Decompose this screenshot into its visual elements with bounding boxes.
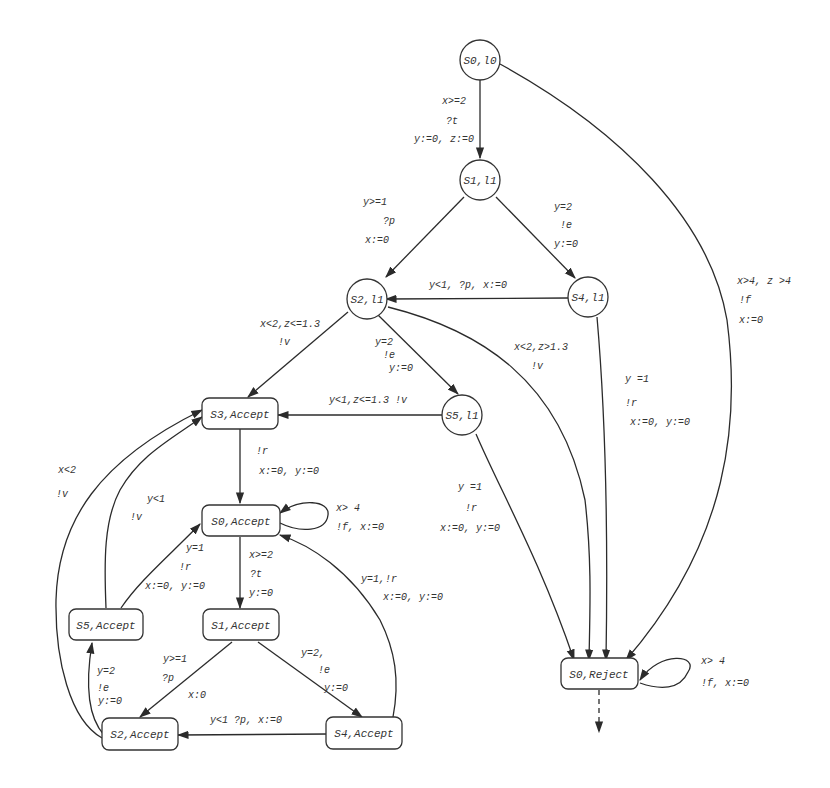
edge-reset: y:=0 — [388, 363, 413, 374]
edge-action: ?t — [250, 569, 262, 580]
edge-label: y<1 ?p, x:=0 — [209, 715, 282, 726]
edge-action: !f — [739, 295, 752, 306]
edge-s0accept-to-s1accept: x>=2 ?t y:=0 — [240, 537, 273, 608]
edge-action: !e — [318, 665, 330, 676]
edge-guard: y=2, — [300, 648, 325, 659]
edge-action: !r — [179, 562, 191, 573]
edge-action: ?p — [383, 216, 395, 227]
edge-action: ?p — [162, 673, 174, 684]
edge-guard: x> 4 — [700, 656, 725, 667]
edge-guard: x<2,z<=1.3 — [259, 319, 320, 330]
edge-s5l1-to-s3accept: y<1,z<=1.3 !v — [278, 395, 442, 415]
edge-guard: x>4, z >4 — [736, 276, 791, 287]
edge-guard: y=2 — [374, 337, 393, 348]
edge-action: !r — [465, 503, 477, 514]
edge-reset: y:=0 — [553, 239, 578, 250]
edge-label-2: !f, x:=0 — [336, 522, 384, 533]
edge-guard: x<2,z>1.3 — [513, 342, 568, 353]
node-label: S2,Accept — [110, 729, 169, 741]
edge-reset: y:=0 — [97, 696, 122, 707]
edge-reset: x:=0, y:=0 — [258, 466, 319, 477]
edge-s0l0-to-reject: x>4, z >4 !f x:=0 — [500, 64, 791, 660]
edge-action: !v — [531, 361, 544, 372]
node-label: S2,l1 — [350, 294, 383, 306]
node-label: S0,Accept — [211, 516, 270, 528]
edge-s1l1-to-s2l1: y>=1 ?p x:=0 — [362, 197, 464, 277]
edge-s4accept-to-s2accept: y<1 ?p, x:=0 — [178, 715, 328, 735]
node-label: S0,l0 — [463, 55, 496, 67]
edge-action: !v — [56, 489, 69, 500]
edge-s5accept-to-s0accept: y=1 !r x:=0, y:=0 — [121, 524, 205, 608]
node-label: S5,Accept — [76, 620, 135, 632]
edge-action: !e — [560, 220, 572, 231]
edge-guard: y<1 — [146, 494, 165, 505]
edge-guard: y =1 — [624, 374, 649, 385]
edge-s2l1-to-reject: x<2,z>1.3 !v — [388, 307, 590, 660]
edge-s2accept-to-s3accept: x<2 !v — [56, 410, 202, 738]
edge-guard: y>=1 — [162, 654, 187, 665]
edge-guard: y=1 — [185, 543, 204, 554]
edge-s4l1-to-s2l1: y<1, ?p, x:=0 — [386, 280, 568, 299]
edge-reset: y:=0, z:=0 — [413, 134, 474, 145]
node-s2-l1[interactable]: S2,l1 — [347, 279, 387, 319]
edge-action: !v — [278, 337, 291, 348]
edge-label-1: y=1,!r — [360, 574, 397, 585]
edge-s2l1-to-s3accept: x<2,z<=1.3 !v — [248, 312, 348, 397]
edge-s1accept-to-s2accept: y>=1 ?p x:0 — [140, 642, 232, 717]
edge-action: !r — [256, 446, 268, 457]
edge-s1l1-to-s4l1: y=2 !e y:=0 — [496, 197, 578, 278]
edge-reset: x:=0, y:=0 — [629, 417, 690, 428]
edge-reset: y:=0 — [323, 683, 348, 694]
edge-s2l1-to-s5l1: y=2 !e y:=0 — [374, 313, 458, 394]
edge-guard: x>=2 — [248, 550, 273, 561]
edge-label-2: x:=0, y:=0 — [382, 592, 443, 603]
node-label: S4,Accept — [334, 728, 393, 740]
node-label: S5,l1 — [445, 410, 478, 422]
edges: x>=2 ?t y:=0, z:=0 y>=1 ?p x:=0 y=2 !e y… — [56, 64, 791, 738]
edge-guard: x<2 — [57, 465, 76, 476]
node-s2-accept[interactable]: S2,Accept — [102, 718, 178, 750]
node-label: S4,l1 — [571, 292, 604, 304]
edge-label: y<1, ?p, x:=0 — [428, 280, 507, 291]
node-s1-l1[interactable]: S1,l1 — [460, 160, 500, 200]
edge-s3accept-to-s0accept: !r x:=0, y:=0 — [240, 428, 319, 503]
node-s0-l0[interactable]: S0,l0 — [460, 40, 500, 80]
edge-s4accept-to-s0accept: y=1,!r x:=0, y:=0 — [280, 535, 443, 717]
edge-action: !e — [97, 683, 109, 694]
node-s5-accept[interactable]: S5,Accept — [69, 609, 143, 640]
edge-guard: y =1 — [457, 482, 482, 493]
edge-reset: x:=0, y:=0 — [439, 523, 500, 534]
node-s1-accept[interactable]: S1,Accept — [203, 609, 279, 640]
node-label: S1,l1 — [463, 175, 496, 187]
edge-guard: x> 4 — [335, 503, 360, 514]
edge-guard: y=2 — [553, 202, 572, 213]
edge-s1accept-to-s4accept: y=2, !e y:=0 — [258, 642, 362, 717]
edge-reset: x:=0 — [738, 315, 763, 326]
edge-label: y<1,z<=1.3 !v — [328, 395, 408, 406]
edge-reset: x:=0, y:=0 — [144, 581, 205, 592]
edge-guard: x>=2 — [441, 96, 466, 107]
edge-s5accept-to-s3accept: y<1 !v — [105, 417, 202, 608]
node-s5-l1[interactable]: S5,l1 — [442, 395, 482, 435]
edge-s0accept-self-loop: x> 4 !f, x:=0 — [280, 503, 384, 533]
edge-s0l0-to-s1l1: x>=2 ?t y:=0, z:=0 — [413, 80, 480, 158]
edge-reject-self-loop: x> 4 !f, x:=0 — [640, 656, 749, 689]
node-s4-accept[interactable]: S4,Accept — [326, 717, 402, 749]
node-s0-accept[interactable]: S0,Accept — [202, 505, 280, 536]
edge-action: !r — [625, 398, 637, 409]
edge-reset: x:0 — [187, 690, 206, 701]
node-label: S0,Reject — [569, 669, 628, 681]
edge-s4l1-to-reject: y =1 !r x:=0, y:=0 — [597, 317, 690, 660]
node-label: S3,Accept — [210, 409, 269, 421]
edge-action: !v — [130, 512, 143, 523]
edge-s5l1-to-reject: y =1 !r x:=0, y:=0 — [439, 434, 574, 660]
edge-guard: y>=1 — [362, 197, 387, 208]
edge-action: ?t — [446, 116, 458, 127]
node-s0-reject[interactable]: S0,Reject — [561, 658, 638, 689]
node-s4-l1[interactable]: S4,l1 — [568, 277, 608, 317]
automaton-diagram: x>=2 ?t y:=0, z:=0 y>=1 ?p x:=0 y=2 !e y… — [0, 0, 830, 788]
edge-guard: y=2 — [96, 666, 115, 677]
node-s3-accept[interactable]: S3,Accept — [202, 398, 278, 429]
node-label: S1,Accept — [211, 620, 270, 632]
edge-reset: x:=0 — [364, 235, 389, 246]
